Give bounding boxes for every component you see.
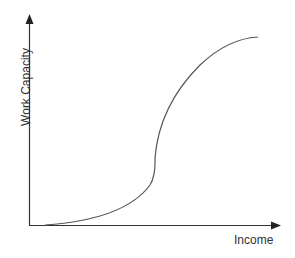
x-axis-label: Income [234,233,273,247]
y-axis-label: Work Capacity [19,47,33,127]
s-curve-diagram [0,0,295,258]
y-axis-arrow-icon [26,14,34,24]
work-capacity-curve [45,37,258,225]
x-axis-arrow-icon [271,222,281,230]
